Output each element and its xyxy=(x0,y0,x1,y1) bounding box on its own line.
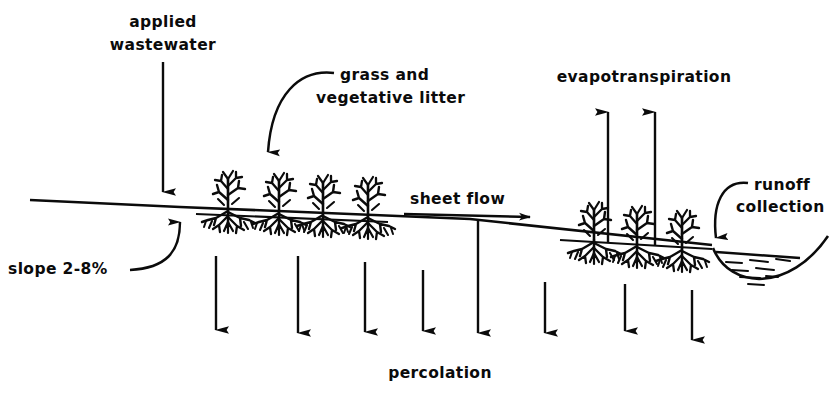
slope-leader-arrow xyxy=(130,222,180,270)
ditch-water-surface xyxy=(716,252,800,258)
runoff-collection-ditch xyxy=(713,236,828,285)
diagram-canvas: applied wastewater grass and vegetative … xyxy=(0,0,839,401)
runoff-collection-group: runoff collection xyxy=(715,176,824,238)
sheet-flow-group: sheet flow xyxy=(404,190,530,217)
sheet-flow-label: sheet flow xyxy=(410,190,505,208)
slope-label: slope 2-8% xyxy=(8,260,108,278)
grass-litter-leader-arrow xyxy=(268,73,334,152)
applied-wastewater-group: applied wastewater xyxy=(110,13,216,192)
runoff-collection-label-line2: collection xyxy=(736,198,825,216)
overland-flow-diagram: applied wastewater grass and vegetative … xyxy=(0,0,839,401)
grass-litter-label-line2: vegetative litter xyxy=(316,89,465,107)
plant-upslope-1 xyxy=(202,171,255,233)
grass-litter-group: grass and vegetative litter xyxy=(268,66,465,152)
runoff-collection-label-line1: runoff xyxy=(754,176,810,194)
ditch-basin-outline xyxy=(713,236,828,279)
applied-wastewater-label-line1: applied xyxy=(129,13,197,31)
grass-litter-label-line1: grass and xyxy=(340,66,429,84)
plant-downslope-1 xyxy=(568,202,621,264)
slope-group: slope 2-8% xyxy=(8,222,180,278)
percolation-arrows xyxy=(216,219,692,340)
ground-surface-line xyxy=(30,200,712,245)
plant-upslope-4 xyxy=(342,177,395,239)
evapotranspiration-label: evapotranspiration xyxy=(557,68,732,86)
percolation-label: percolation xyxy=(388,364,492,382)
applied-wastewater-label-line2: wastewater xyxy=(110,36,216,54)
upslope-vegetation xyxy=(202,171,395,239)
